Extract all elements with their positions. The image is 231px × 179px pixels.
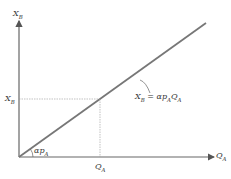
x-tick-label: QA <box>95 163 106 173</box>
y-axis-label: XB <box>13 10 23 20</box>
x-axis-label: QA <box>216 152 227 162</box>
slope-label: αpA <box>34 147 49 157</box>
y-tick-label: XB <box>5 95 15 105</box>
line-equation-label: XB = αpAQA <box>135 93 182 103</box>
ray-line <box>19 23 206 157</box>
angle-arc <box>30 149 33 157</box>
